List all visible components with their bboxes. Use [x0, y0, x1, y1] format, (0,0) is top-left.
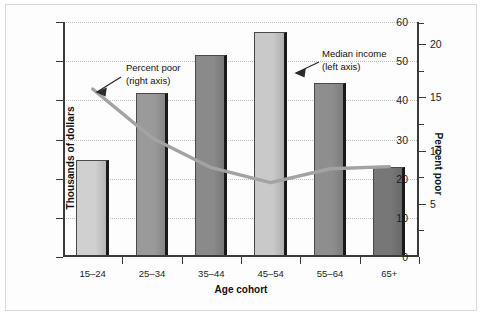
y-axis-left-tick [56, 140, 63, 141]
bar [195, 55, 227, 257]
y-axis-left-tick [56, 218, 63, 219]
x-axis-tick-label: 25–34 [139, 268, 165, 279]
y-axis-left-tick [56, 179, 63, 180]
x-axis-tick [182, 257, 183, 264]
y-axis-right-minor-tick [419, 124, 424, 125]
arrow-median-income [296, 62, 319, 77]
annotation-median-income-line1: Median income [322, 48, 386, 61]
bar [136, 93, 168, 258]
annotation-median-income-line2: (left axis) [322, 61, 386, 74]
x-axis-tick [300, 257, 301, 264]
y-axis-left-tick-label: 60 [396, 16, 408, 28]
x-axis-tick-label: 15–24 [79, 268, 105, 279]
y-axis-right-tick [419, 97, 426, 98]
x-axis-tick-label: 65+ [381, 268, 397, 279]
y-axis-left-tick-label: 30 [396, 134, 408, 146]
x-axis-tick [360, 257, 361, 264]
y-axis-right-tick-label: 10 [430, 145, 442, 157]
bar [314, 83, 346, 257]
x-axis-tick-label: 45–54 [257, 268, 283, 279]
y-axis-right-tick-label: 5 [430, 198, 436, 210]
annotation-percent-poor: Percent poor (right axis) [126, 62, 180, 87]
y-axis-right [417, 22, 419, 257]
gridline [63, 22, 419, 23]
gridline [63, 179, 419, 180]
gridline [63, 100, 419, 101]
x-axis-tick-label: 35–44 [198, 268, 224, 279]
bar [76, 160, 108, 257]
chart-figure: Thousands of dollars Percent poor Age co… [0, 0, 482, 315]
y-axis-left [63, 22, 65, 257]
y-axis-left-tick [56, 257, 63, 258]
arrow-percent-poor [97, 77, 121, 96]
y-axis-left-tick [56, 61, 63, 62]
gridline [63, 218, 419, 219]
bar [254, 32, 286, 257]
x-axis-tick-label: 55–64 [317, 268, 343, 279]
x-axis-title: Age cohort [0, 284, 482, 295]
y-axis-left-tick-label: 10 [396, 212, 408, 224]
annotation-percent-poor-line1: Percent poor [126, 62, 180, 75]
y-axis-right-tick-label: 15 [430, 91, 442, 103]
y-axis-right-tick [419, 151, 426, 152]
plot-area: 0102030405060 5101520 15–2425–3435–4445–… [63, 22, 419, 257]
y-axis-right-tick-label: 20 [430, 38, 442, 50]
annotation-median-income: Median income (left axis) [322, 48, 386, 73]
y-axis-left-tick [56, 100, 63, 101]
y-axis-right-minor-tick [419, 71, 424, 72]
annotation-percent-poor-line2: (right axis) [126, 75, 180, 88]
y-axis-right-tick [419, 204, 426, 205]
y-axis-left-tick-label: 0 [402, 251, 408, 263]
gridline [63, 140, 419, 141]
y-axis-right-minor-tick [419, 177, 424, 178]
y-axis-left-tick-label: 40 [396, 94, 408, 106]
y-axis-title-right: Percent poor [433, 132, 444, 195]
x-axis-tick [241, 257, 242, 264]
y-axis-right-minor-tick [419, 23, 424, 24]
y-axis-left-tick [56, 22, 63, 23]
x-axis-tick [122, 257, 123, 264]
y-axis-right-tick [419, 44, 426, 45]
y-axis-right-minor-tick [419, 230, 424, 231]
y-axis-left-tick-label: 20 [396, 173, 408, 185]
y-axis-left-tick-label: 50 [396, 55, 408, 67]
x-axis-tick [419, 257, 420, 264]
